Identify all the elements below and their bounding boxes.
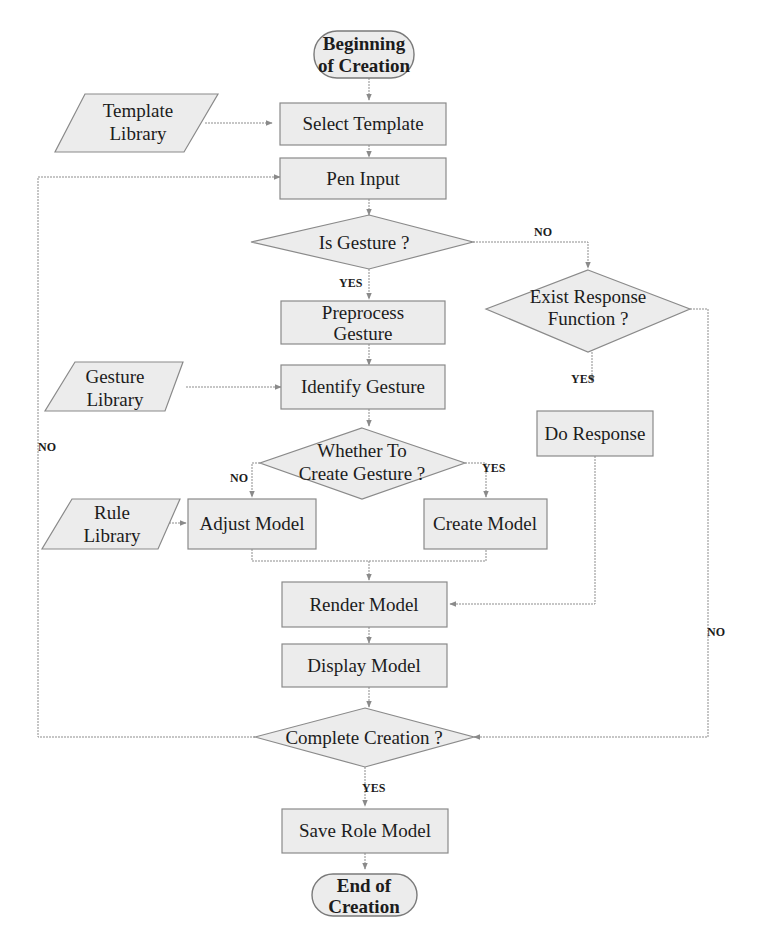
is-gesture-yes-label: YES <box>339 276 363 290</box>
node-save-role-model: Save Role Model <box>282 809 448 853</box>
node-preprocess-gesture: Preprocess Gesture <box>281 301 445 344</box>
do-response-label: Do Response <box>545 423 646 444</box>
node-select-template: Select Template <box>280 103 446 145</box>
preprocess-line2: Gesture <box>333 323 392 344</box>
node-exist-response: Exist Response Function ? <box>486 270 690 352</box>
display-model-label: Display Model <box>307 655 420 676</box>
complete-creation-label: Complete Creation ? <box>285 727 442 748</box>
template-library-line2: Library <box>110 123 167 144</box>
node-adjust-model: Adjust Model <box>188 499 316 549</box>
node-identify-gesture: Identify Gesture <box>281 365 445 409</box>
node-start: Beginning of Creation <box>314 31 414 78</box>
create-model-label: Create Model <box>433 513 537 534</box>
end-label-line1: End of <box>337 875 392 896</box>
exist-response-no-label: NO <box>707 625 725 639</box>
identify-gesture-label: Identify Gesture <box>301 376 425 397</box>
node-create-model: Create Model <box>424 499 547 549</box>
node-rule-library: Rule Library <box>42 499 180 549</box>
exist-response-line2: Function ? <box>548 308 629 329</box>
gesture-library-line2: Library <box>87 389 144 410</box>
node-pen-input: Pen Input <box>280 158 446 199</box>
node-do-response: Do Response <box>537 411 653 456</box>
end-label-line2: Creation <box>328 896 400 917</box>
gesture-library-line1: Gesture <box>85 366 144 387</box>
whether-create-line2: Create Gesture ? <box>299 463 426 484</box>
complete-no-label: NO <box>38 440 56 454</box>
start-label-line2: of Creation <box>318 55 410 76</box>
render-model-label: Render Model <box>309 594 418 615</box>
pen-input-label: Pen Input <box>326 168 400 189</box>
exist-response-line1: Exist Response <box>530 286 647 307</box>
preprocess-line1: Preprocess <box>322 302 404 323</box>
rule-library-line1: Rule <box>94 502 130 523</box>
edge-whether-no <box>252 463 260 497</box>
whether-create-no-label: NO <box>230 471 248 485</box>
template-library-line1: Template <box>103 100 173 121</box>
node-complete-creation: Complete Creation ? <box>255 708 474 767</box>
node-is-gesture: Is Gesture ? <box>251 215 473 269</box>
adjust-model-label: Adjust Model <box>199 513 304 534</box>
save-role-model-label: Save Role Model <box>299 820 431 841</box>
flowchart-canvas: Beginning of Creation Template Library S… <box>0 0 760 952</box>
is-gesture-no-label: NO <box>534 225 552 239</box>
edge-isgesture-no <box>473 242 588 268</box>
node-gesture-library: Gesture Library <box>45 362 183 411</box>
node-whether-create: Whether To Create Gesture ? <box>260 428 465 499</box>
edge-complete-no-loop <box>38 177 280 737</box>
node-end: End of Creation <box>312 874 417 917</box>
edge-models-merge <box>252 549 486 561</box>
start-label-line1: Beginning <box>323 33 406 54</box>
node-render-model: Render Model <box>282 582 447 627</box>
rule-library-line2: Library <box>84 525 141 546</box>
complete-yes-label: YES <box>362 781 386 795</box>
is-gesture-label: Is Gesture ? <box>319 232 410 253</box>
select-template-label: Select Template <box>302 113 423 134</box>
whether-create-line1: Whether To <box>317 440 407 461</box>
whether-create-yes-label: YES <box>482 461 506 475</box>
node-template-library: Template Library <box>55 94 218 152</box>
exist-response-yes-label: YES <box>571 372 595 386</box>
node-display-model: Display Model <box>282 644 447 687</box>
